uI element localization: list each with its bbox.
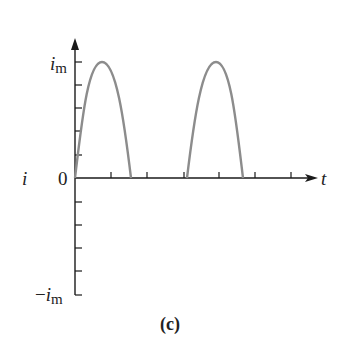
y-min-label: −im <box>35 284 63 307</box>
half-wave-rectified-chart: im 0 i t −im (c) <box>0 0 346 340</box>
positive-half-cycle-1 <box>75 62 131 178</box>
zero-label: 0 <box>58 168 68 189</box>
current-waveform <box>75 62 243 178</box>
x-axis <box>75 172 318 182</box>
y-axis-arrow-icon <box>71 38 79 50</box>
x-axis-label: t <box>321 168 327 189</box>
y-axis-label: i <box>22 168 27 189</box>
figure-caption: (c) <box>160 314 180 335</box>
y-max-label: im <box>50 53 67 76</box>
positive-half-cycle-2 <box>187 62 243 178</box>
